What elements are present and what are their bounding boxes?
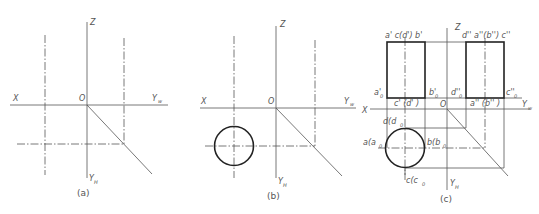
diagonal-45-line bbox=[87, 105, 152, 174]
svg-text:0: 0 bbox=[380, 93, 383, 99]
svg-text:a'' (b'' ): a'' (b'' ) bbox=[470, 99, 500, 108]
svg-text:0: 0 bbox=[435, 93, 438, 99]
svg-text:H: H bbox=[283, 182, 287, 188]
svg-text:c(c: c(c bbox=[406, 176, 419, 185]
svg-text:0: 0 bbox=[459, 93, 462, 99]
front-view-rect bbox=[387, 42, 425, 98]
svg-text:c' (d' ): c' (d' ) bbox=[394, 99, 419, 108]
svg-text:H: H bbox=[455, 184, 459, 190]
caption-a: (a) bbox=[77, 188, 90, 198]
svg-text:0: 0 bbox=[443, 143, 446, 149]
panel-c: X Z O Y w Y H (c) a' c(d') b' a' 0 b' 0 … bbox=[361, 23, 533, 204]
front-top-label: a' c(d') b' bbox=[385, 31, 422, 40]
svg-text:X: X bbox=[361, 106, 368, 115]
caption-b: (b) bbox=[267, 191, 280, 201]
diagonal-45-line bbox=[276, 108, 342, 176]
svg-text:X: X bbox=[200, 97, 207, 106]
svg-text:O: O bbox=[268, 97, 274, 106]
svg-text:0: 0 bbox=[400, 122, 403, 128]
side-top-label: d'' a''(b'') c'' bbox=[462, 31, 510, 40]
z-label: Z bbox=[89, 18, 96, 27]
svg-text:O: O bbox=[440, 100, 446, 109]
x-label: X bbox=[12, 94, 19, 103]
svg-text:H: H bbox=[94, 179, 98, 185]
svg-text:w: w bbox=[528, 105, 533, 111]
svg-text:w: w bbox=[350, 101, 355, 107]
svg-text:w: w bbox=[158, 98, 163, 104]
caption-c: (c) bbox=[440, 194, 452, 204]
svg-text:0: 0 bbox=[379, 143, 382, 149]
projection-diagram: X Z O Y w Y H (a) X Z O Y w Y H (b) bbox=[0, 0, 539, 214]
panel-b: X Z O Y w Y H (b) bbox=[200, 20, 356, 201]
svg-text:0: 0 bbox=[514, 93, 517, 99]
svg-text:b(b: b(b bbox=[427, 138, 440, 147]
svg-text:0: 0 bbox=[422, 181, 425, 187]
svg-text:Z: Z bbox=[454, 23, 461, 32]
svg-text:a(a: a(a bbox=[363, 138, 376, 147]
svg-text:Z: Z bbox=[279, 20, 286, 29]
origin-label: O bbox=[79, 94, 85, 103]
svg-text:d(d: d(d bbox=[383, 117, 397, 126]
panel-a: X Z O Y w Y H (a) bbox=[10, 18, 168, 198]
diagonal-45-line bbox=[447, 109, 508, 176]
